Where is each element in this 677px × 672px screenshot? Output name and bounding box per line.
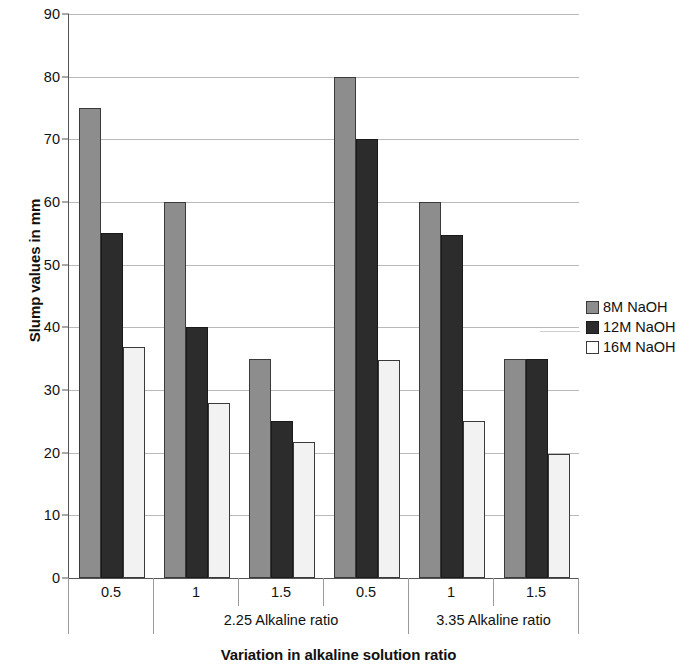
bar-chart: Slump values in mm 0102030405060708090 0… (0, 0, 677, 672)
bar (526, 359, 548, 578)
legend-swatch-icon (586, 321, 599, 334)
y-axis-tick-mark (62, 139, 69, 140)
category-axis: 0.511.50.511.5 2.25 Alkaline ratio3.35 A… (48, 578, 579, 634)
y-axis-tick-mark (62, 390, 69, 391)
y-axis-tick-label: 50 (44, 257, 60, 273)
legend-label: 12M NaOH (603, 319, 676, 335)
category-label: 0.5 (68, 578, 153, 606)
bar (293, 442, 315, 578)
bar (249, 359, 271, 578)
y-axis-tick-label: 30 (44, 382, 60, 398)
legend-label: 8M NaOH (603, 299, 667, 315)
legend-item: 12M NaOH (586, 317, 677, 337)
bar (79, 108, 101, 578)
legend-swatch-icon (586, 341, 599, 354)
bar (378, 360, 400, 578)
bar (186, 327, 208, 578)
y-axis-tick-mark (62, 14, 69, 15)
plot-area: 0102030405060708090 (68, 14, 578, 578)
legend: 8M NaOH12M NaOH16M NaOH (586, 297, 677, 357)
bar (208, 403, 230, 578)
bar (419, 202, 441, 578)
legend-label: 16M NaOH (603, 339, 676, 355)
category-label: 1.5 (493, 578, 578, 606)
bar (101, 233, 123, 578)
bar (164, 202, 186, 578)
bar (463, 421, 485, 578)
bar (441, 235, 463, 578)
category-axis-row-groups: 2.25 Alkaline ratio3.35 Alkaline ratio (48, 606, 578, 634)
bar (334, 77, 356, 578)
y-axis-tick-mark (62, 264, 69, 265)
y-axis-title: Slump values in mm (26, 181, 43, 361)
category-label: 0.5 (323, 578, 408, 606)
bar (504, 359, 526, 578)
bar (548, 454, 570, 578)
legend-item: 16M NaOH (586, 337, 677, 357)
category-label: 1 (153, 578, 238, 606)
bar (356, 139, 378, 578)
bar (271, 421, 293, 578)
bar (123, 347, 145, 578)
y-axis-tick-mark (62, 452, 69, 453)
bars-layer (69, 14, 579, 578)
legend-swatch-icon (586, 301, 599, 314)
x-axis-title: Variation in alkaline solution ratio (0, 646, 677, 663)
y-axis-tick-mark (62, 202, 69, 203)
group-label: 3.35 Alkaline ratio (408, 606, 578, 634)
group-label-empty (68, 606, 153, 634)
category-label: 1.5 (238, 578, 323, 606)
y-axis-tick-mark (62, 515, 69, 516)
y-axis-tick-label: 40 (44, 319, 60, 335)
y-axis-tick-label: 60 (44, 194, 60, 210)
legend-item: 8M NaOH (586, 297, 677, 317)
y-axis-tick-label: 90 (44, 6, 60, 22)
category-label: 1 (408, 578, 493, 606)
y-axis-tick-label: 80 (44, 69, 60, 85)
y-axis-tick-label: 70 (44, 131, 60, 147)
y-axis-tick-label: 10 (44, 507, 60, 523)
y-axis-tick-mark (62, 327, 69, 328)
y-axis-tick-label: 20 (44, 445, 60, 461)
y-axis-tick-mark (62, 76, 69, 77)
category-axis-row-values: 0.511.50.511.5 (48, 578, 578, 606)
group-label: 2.25 Alkaline ratio (153, 606, 408, 634)
legend-leader-line (540, 331, 580, 332)
